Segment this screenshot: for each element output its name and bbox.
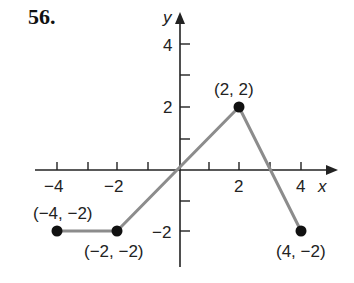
point-label: (4, −2) (276, 242, 326, 261)
x-tick-label: −2 (104, 177, 123, 196)
piecewise-line (57, 107, 301, 231)
data-point (112, 226, 123, 237)
x-axis-arrow-icon (326, 165, 338, 175)
x-tick-label: −4 (44, 177, 63, 196)
point-label: (−4, −2) (33, 204, 93, 223)
y-tick-label: 4 (163, 36, 172, 55)
point-label: (−2, −2) (84, 242, 144, 261)
data-point (296, 226, 307, 237)
x-axis-label: x (317, 177, 327, 196)
chart: 56. −4 −2 2 (0, 0, 354, 283)
y-axis-label: y (162, 8, 173, 27)
problem-number: 56. (28, 4, 56, 29)
y-tick-label: −2 (152, 223, 171, 242)
x-tick-label: 2 (234, 177, 243, 196)
x-tick-label: 4 (296, 177, 305, 196)
data-point (234, 102, 245, 113)
y-tick-label: 2 (163, 98, 172, 117)
figure: 56. −4 −2 2 (0, 0, 354, 283)
y-axis-arrow-icon (175, 12, 185, 24)
data-point (52, 226, 63, 237)
point-label: (2, 2) (214, 80, 254, 99)
y-ticks (180, 44, 190, 231)
